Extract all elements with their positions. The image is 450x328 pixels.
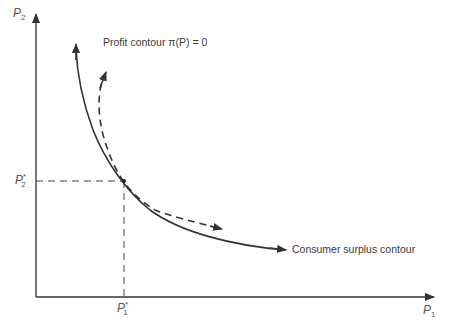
- diagram-canvas: [0, 0, 450, 328]
- profit-contour-label: Profit contour π(P) = 0: [103, 36, 207, 48]
- p2-star-label: P*2: [15, 172, 26, 189]
- profit-contour-curve: [99, 76, 218, 228]
- x-axis-label: P1: [423, 303, 435, 319]
- p1-star-label: P*1: [117, 300, 128, 317]
- optimum-point: [122, 179, 126, 183]
- consumer-surplus-label: Consumer surplus contour: [292, 243, 415, 255]
- y-axis-label: P2: [13, 6, 25, 22]
